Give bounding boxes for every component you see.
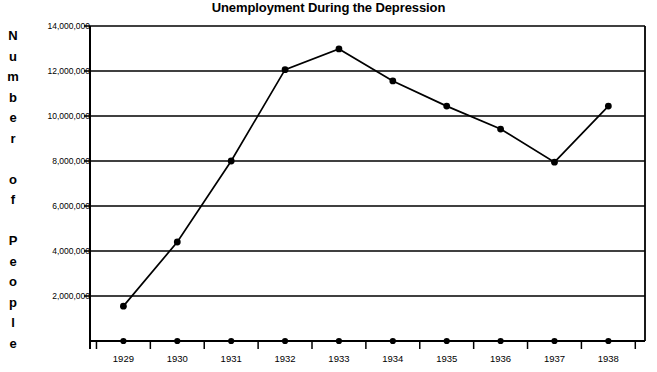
plot-area	[0, 0, 657, 372]
data-markers-unemployed	[120, 46, 612, 310]
unemployment-line-chart: Unemployment During the Depression Numbe…	[0, 0, 657, 372]
axis-lines	[90, 26, 645, 349]
data-line-unemployed	[123, 49, 608, 306]
